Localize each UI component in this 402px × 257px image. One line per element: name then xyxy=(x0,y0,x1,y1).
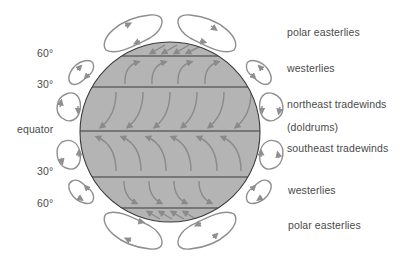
wind-label-polar-easterlies-north: polar easterlies xyxy=(287,26,360,38)
wind-label-northeast-tradewinds: northeast tradewinds xyxy=(287,98,386,110)
equator-label: equator xyxy=(17,123,53,135)
latitude-label-60s: 60° xyxy=(37,197,53,209)
latitude-label-30n: 30° xyxy=(37,78,53,90)
latitude-label-30s: 30° xyxy=(37,165,53,177)
wind-label-westerlies-north: westerlies xyxy=(287,62,335,74)
wind-label-polar-easterlies-south: polar easterlies xyxy=(288,219,361,231)
hadley-cell-loop xyxy=(57,140,80,169)
ferrel-cell-loop xyxy=(69,61,94,85)
wind-label-southeast-tradewinds: southeast tradewinds xyxy=(287,142,388,154)
ferrel-cell-loop xyxy=(246,180,271,203)
ferrel-cell-loop xyxy=(69,180,94,203)
hadley-cell-loop xyxy=(260,140,283,169)
latitude-label-60n: 60° xyxy=(37,47,53,59)
wind-label-doldrums: (doldrums) xyxy=(287,121,338,133)
wind-label-westerlies-south: westerlies xyxy=(288,184,336,196)
ferrel-cell-loop xyxy=(246,61,271,85)
